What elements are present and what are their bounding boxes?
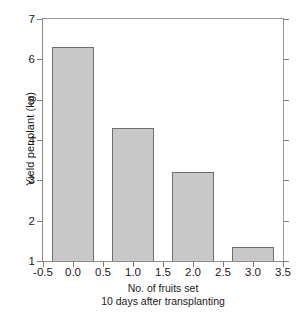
y-axis-tick (37, 100, 43, 101)
bar (52, 47, 94, 261)
y-axis-tick (37, 59, 43, 60)
bar-chart: Yield per plant (kg) 1234567 -0.50.00.51… (0, 0, 298, 312)
bars-layer (43, 19, 283, 261)
x-axis-tick-label: 2.0 (185, 266, 201, 278)
y-axis-tick (37, 140, 43, 141)
y-axis-tick-right (283, 140, 289, 141)
y-axis-tick-right (283, 59, 289, 60)
bar (172, 172, 214, 261)
x-axis-tick-label: 3.0 (245, 266, 261, 278)
y-axis-tick-label: 2 (29, 215, 35, 227)
bar (112, 128, 154, 261)
y-axis-tick-label: 3 (29, 174, 35, 186)
bar (232, 247, 274, 261)
x-axis-tick-label: 1.5 (155, 266, 171, 278)
x-axis-tick-label: 2.5 (215, 266, 231, 278)
y-axis-tick (37, 221, 43, 222)
y-axis-tick-right (283, 180, 289, 181)
y-axis-tick-label: 6 (29, 53, 35, 65)
plot-area: 1234567 -0.50.00.51.01.52.02.53.03.5 (42, 18, 284, 262)
y-axis-tick-label: 4 (29, 134, 35, 146)
x-axis-tick-label: 3.5 (275, 266, 291, 278)
x-axis-title: No. of fruits set 10 days after transpla… (42, 282, 284, 308)
x-axis-tick-label: 0.5 (95, 266, 111, 278)
x-axis-title-line-1: No. of fruits set (42, 282, 284, 295)
y-axis-tick-right (283, 100, 289, 101)
x-axis-title-line-2: 10 days after transplanting (42, 295, 284, 308)
y-axis-tick (37, 19, 43, 20)
y-axis-tick-label: 7 (29, 13, 35, 25)
x-axis-tick-label: 1.0 (125, 266, 141, 278)
y-axis-tick-right (283, 19, 289, 20)
x-axis-tick-label: 0.0 (65, 266, 81, 278)
y-axis-tick (37, 180, 43, 181)
x-axis-tick-label: -0.5 (33, 266, 53, 278)
y-axis-tick-right (283, 221, 289, 222)
y-axis-tick-label: 5 (29, 94, 35, 106)
